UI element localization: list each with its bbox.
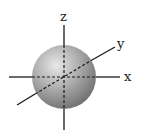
x-axis-label: x xyxy=(124,69,132,84)
y-axis-label: y xyxy=(116,36,125,51)
z-axis-label: z xyxy=(60,9,67,24)
orbital-diagram: z y x xyxy=(0,0,141,134)
